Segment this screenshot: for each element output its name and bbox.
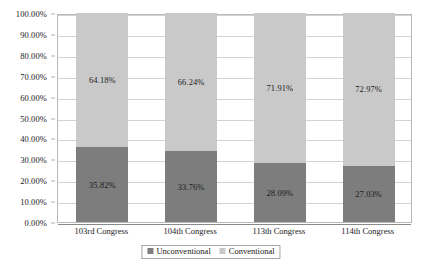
y-axis-tick-label: 0.00% bbox=[25, 218, 47, 228]
y-axis-tick-mark bbox=[51, 97, 55, 98]
y-axis-tick-label: 80.00% bbox=[20, 51, 47, 61]
x-axis-category-label: 104th Congress bbox=[146, 226, 235, 236]
y-axis-tick-mark bbox=[51, 202, 55, 203]
y-axis-tick-label: 40.00% bbox=[20, 134, 47, 144]
y-axis-tick-label: 20.00% bbox=[20, 176, 47, 186]
plot-area: 35.82%64.18%33.76%66.24%28.09%71.91%27.0… bbox=[57, 14, 412, 223]
legend-swatch-icon bbox=[147, 248, 153, 254]
y-axis: 0.00%10.00%20.00%30.00%40.00%50.00%60.00… bbox=[0, 0, 55, 223]
bar-value-label-unconventional: 35.82% bbox=[76, 180, 128, 190]
bar-value-label-unconventional: 27.03% bbox=[343, 189, 395, 199]
bar-group[interactable]: 33.76%66.24% bbox=[165, 15, 217, 222]
y-axis-tick-mark bbox=[51, 139, 55, 140]
bar-value-label-conventional: 64.18% bbox=[76, 75, 128, 85]
y-axis-tick-label: 90.00% bbox=[20, 30, 47, 40]
y-axis-tick-mark bbox=[51, 76, 55, 77]
bar-value-label-conventional: 71.91% bbox=[254, 83, 306, 93]
bar-group[interactable]: 28.09%71.91% bbox=[254, 15, 306, 222]
bar-group[interactable]: 27.03%72.97% bbox=[343, 15, 395, 222]
y-axis-tick-mark bbox=[51, 14, 55, 15]
x-axis-category-label: 103rd Congress bbox=[57, 226, 146, 236]
chart-legend: UnconventionalConventional bbox=[141, 245, 280, 259]
y-axis-tick-mark bbox=[51, 181, 55, 182]
y-axis-tick-mark bbox=[51, 34, 55, 35]
legend-entry[interactable]: Conventional bbox=[220, 247, 275, 256]
legend-label: Conventional bbox=[229, 247, 275, 256]
legend-swatch-icon bbox=[220, 248, 226, 254]
bar-value-label-conventional: 72.97% bbox=[343, 84, 395, 94]
y-axis-tick-mark bbox=[51, 223, 55, 224]
gridline bbox=[58, 224, 411, 225]
y-axis-tick-label: 60.00% bbox=[20, 93, 47, 103]
y-axis-tick-label: 30.00% bbox=[20, 155, 47, 165]
legend-entry[interactable]: Unconventional bbox=[147, 247, 210, 256]
bar-group[interactable]: 35.82%64.18% bbox=[76, 15, 128, 222]
x-axis-category-label: 113th Congress bbox=[235, 226, 324, 236]
x-axis-category-labels: 103rd Congress104th Congress113th Congre… bbox=[57, 226, 412, 242]
y-axis-tick-mark bbox=[51, 55, 55, 56]
y-axis-tick-mark bbox=[51, 160, 55, 161]
x-axis-category-label: 114th Congress bbox=[323, 226, 412, 236]
legend-label: Unconventional bbox=[156, 247, 210, 256]
y-axis-tick-label: 100.00% bbox=[16, 9, 47, 19]
y-axis-tick-mark bbox=[51, 118, 55, 119]
bar-value-label-unconventional: 28.09% bbox=[254, 188, 306, 198]
y-axis-tick-label: 10.00% bbox=[20, 197, 47, 207]
bar-value-label-conventional: 66.24% bbox=[165, 77, 217, 87]
y-axis-tick-label: 70.00% bbox=[20, 72, 47, 82]
y-axis-tick-label: 50.00% bbox=[20, 114, 47, 124]
stacked-bar-chart: 0.00%10.00%20.00%30.00%40.00%50.00%60.00… bbox=[0, 0, 422, 267]
bar-value-label-unconventional: 33.76% bbox=[165, 182, 217, 192]
